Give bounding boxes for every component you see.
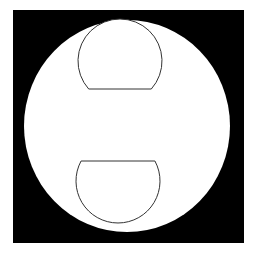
diagram: [0, 0, 254, 261]
